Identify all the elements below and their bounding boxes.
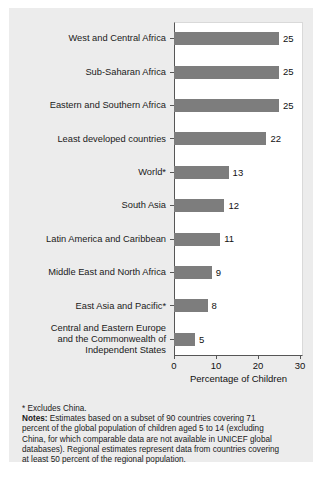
bar-value-label: 25	[283, 67, 294, 77]
bar-value-label: 25	[283, 34, 294, 44]
category-label: West and Central Africa	[9, 33, 170, 44]
bar-rows: West and Central Africa25Sub-Saharan Afr…	[9, 22, 304, 356]
bar-value-label: 13	[233, 168, 244, 178]
footnote-notes: Notes: Estimates based on a subset of 90…	[22, 414, 280, 465]
bar-value-label: 25	[283, 101, 294, 111]
bar-row: World*13	[9, 155, 304, 189]
bar-row: Central and Eastern Europe and the Commo…	[9, 322, 304, 356]
bar-container: 13	[174, 166, 304, 179]
x-tick-label: 10	[211, 360, 222, 371]
bar[interactable]	[174, 233, 220, 246]
bar[interactable]	[174, 299, 208, 312]
bar-container: 25	[174, 66, 304, 79]
category-label: Middle East and North Africa	[9, 267, 170, 278]
x-tick	[300, 356, 301, 359]
bar-value-label: 5	[199, 335, 204, 345]
bar-row: Sub-Saharan Africa25	[9, 55, 304, 89]
x-tick	[258, 356, 259, 359]
x-tick-label: 30	[295, 360, 306, 371]
footnote-notes-text: Estimates based on a subset of 90 countr…	[22, 414, 279, 464]
bar[interactable]	[174, 266, 212, 279]
footnote-notes-label: Notes:	[22, 414, 47, 423]
bar-row: West and Central Africa25	[9, 22, 304, 56]
bar-row: East Asia and Pacific*8	[9, 289, 304, 323]
bar-container: 8	[174, 299, 304, 312]
bar-row: Middle East and North Africa9	[9, 256, 304, 290]
bar-container: 25	[174, 32, 304, 45]
x-tick-label: 0	[171, 360, 176, 371]
bar-row: South Asia12	[9, 189, 304, 223]
bar[interactable]	[174, 66, 279, 79]
category-label: Latin America and Caribbean	[9, 234, 170, 245]
category-label: Least developed countries	[9, 134, 170, 145]
bar-row: Least developed countries22	[9, 122, 304, 156]
bar[interactable]	[174, 99, 279, 112]
x-axis-title: Percentage of Children	[174, 373, 303, 384]
category-label: Eastern and Southern Africa	[9, 100, 170, 111]
x-tick	[174, 356, 175, 359]
bar[interactable]	[174, 32, 279, 45]
x-tick	[216, 356, 217, 359]
x-tick-label: 20	[253, 360, 264, 371]
figure: West and Central Africa25Sub-Saharan Afr…	[0, 0, 323, 482]
bar-value-label: 11	[224, 234, 234, 244]
bar-container: 12	[174, 199, 304, 212]
bar-container: 25	[174, 99, 304, 112]
bar-row: Latin America and Caribbean11	[9, 222, 304, 256]
category-label: World*	[9, 167, 170, 178]
bar[interactable]	[174, 333, 195, 346]
bar-value-label: 8	[212, 301, 217, 311]
bar-value-label: 22	[270, 134, 281, 144]
bar-container: 22	[174, 132, 304, 145]
bar-value-label: 9	[216, 268, 221, 278]
bar-row: Eastern and Southern Africa25	[9, 89, 304, 123]
bar-value-label: 12	[228, 201, 239, 211]
bar-container: 5	[174, 333, 304, 346]
category-label: Sub-Saharan Africa	[9, 67, 170, 78]
category-label: Central and Eastern Europe and the Commo…	[9, 323, 170, 355]
bar-container: 9	[174, 266, 304, 279]
bar[interactable]	[174, 132, 266, 145]
footnote-asterisk: * Excludes China.	[22, 404, 280, 414]
bar[interactable]	[174, 166, 229, 179]
category-label: South Asia	[9, 200, 170, 211]
footnotes: * Excludes China. Notes: Estimates based…	[22, 404, 280, 465]
category-label: East Asia and Pacific*	[9, 301, 170, 312]
bar-container: 11	[174, 233, 304, 246]
bar[interactable]	[174, 199, 224, 212]
